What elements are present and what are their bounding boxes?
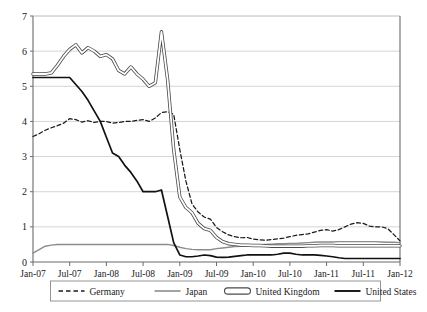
axes — [33, 16, 400, 262]
chart-legend: GermanyJapanUnited KingdomUnited States — [51, 281, 417, 301]
x-axis-ticks: Jan-07Jul-07Jan-08Jul-08Jan-09Jul-09Jan-… — [20, 262, 413, 279]
x-axis-tick-label: Jan-10 — [241, 269, 267, 279]
legend-label: United States — [366, 287, 417, 297]
series-line-united-kingdom-inner — [33, 32, 400, 246]
y-axis-tick-label: 6 — [22, 46, 27, 57]
x-axis-tick-label: Jul-08 — [131, 269, 155, 279]
legend-item-united-kingdom[interactable]: United Kingdom — [225, 287, 321, 297]
x-axis-tick-label: Jul-10 — [278, 269, 302, 279]
legend-item-united-states[interactable]: United States — [335, 287, 417, 297]
y-axis-tick-label: 4 — [22, 116, 27, 127]
x-axis-tick-label: Jul-09 — [205, 269, 229, 279]
y-axis-tick-label: 2 — [22, 186, 27, 197]
x-axis-tick-label: Jan-09 — [167, 269, 193, 279]
chart-canvas: 01234567Jan-07Jul-07Jan-08Jul-08Jan-09Ju… — [0, 0, 427, 312]
x-axis-tick-label: Jul-07 — [58, 269, 82, 279]
legend-item-japan[interactable]: Japan — [155, 287, 208, 297]
legend-label: Japan — [186, 287, 208, 297]
series-line-germany — [33, 112, 400, 241]
y-axis-tick-label: 1 — [22, 221, 27, 232]
y-axis-tick-label: 0 — [22, 257, 27, 268]
x-axis-tick-label: Jan-08 — [94, 269, 120, 279]
x-axis-tick-label: Jan-11 — [314, 269, 339, 279]
x-axis-tick-label: Jan-07 — [20, 269, 46, 279]
x-axis-tick-label: Jan-12 — [387, 269, 413, 279]
y-axis-tick-label: 3 — [22, 151, 27, 162]
legend-swatch-double — [225, 288, 251, 294]
legend-item-germany[interactable]: Germany — [59, 287, 126, 297]
series-line-united-kingdom — [33, 32, 400, 246]
y-axis-tick-label: 7 — [22, 11, 27, 22]
data-series-group — [33, 32, 400, 259]
legend-label: United Kingdom — [256, 287, 321, 297]
series-line-united-states — [33, 78, 400, 259]
x-axis-tick-label: Jul-11 — [352, 269, 376, 279]
y-axis-tick-label: 5 — [22, 81, 27, 92]
legend-label: Germany — [90, 287, 126, 297]
interest-rate-line-chart: 01234567Jan-07Jul-07Jan-08Jul-08Jan-09Ju… — [0, 0, 427, 312]
